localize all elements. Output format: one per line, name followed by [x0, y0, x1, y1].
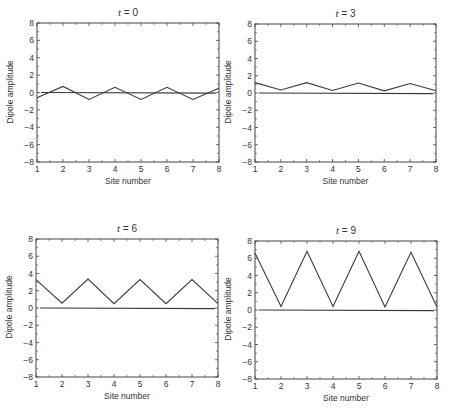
x-tick-label: 3 — [305, 381, 310, 391]
x-tick-label: 7 — [409, 381, 414, 391]
y-tick-label: 6 — [247, 253, 252, 263]
x-tick-label: 8 — [435, 381, 440, 391]
y-tick-label: 4 — [247, 271, 252, 281]
y-tick-label: −6 — [242, 357, 252, 367]
plot-area: 12345678−8−6−4−202468 — [0, 0, 449, 412]
zero-line — [259, 310, 434, 311]
x-tick-label: 2 — [279, 381, 284, 391]
y-tick-label: −4 — [242, 340, 252, 350]
x-tick-label: 4 — [331, 381, 336, 391]
y-tick-label: −8 — [242, 374, 252, 384]
y-tick-label: −2 — [242, 322, 252, 332]
y-tick-label: 8 — [247, 236, 252, 246]
y-tick-label: 0 — [247, 305, 252, 315]
panel-t9: t = 9 Dipole amplitude Site number 12345… — [0, 0, 449, 412]
x-tick-label: 6 — [383, 381, 388, 391]
x-tick-label: 5 — [357, 381, 362, 391]
y-tick-label: 2 — [247, 288, 252, 298]
dipole-line — [255, 251, 437, 307]
x-tick-label: 1 — [253, 381, 258, 391]
